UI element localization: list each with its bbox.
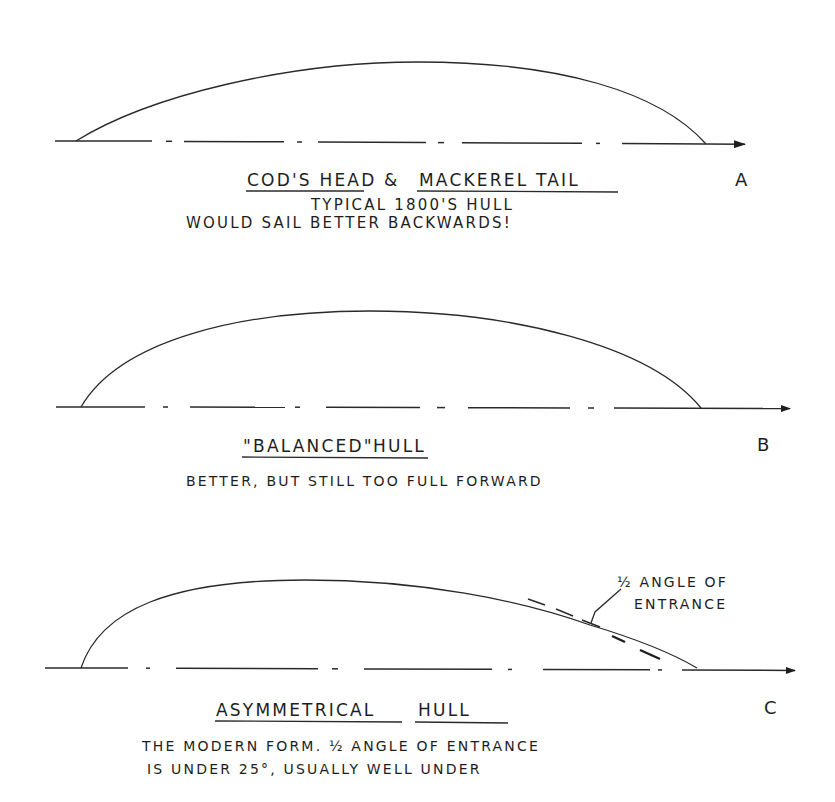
hull-curve-a: [76, 62, 706, 144]
title-ampersand: &: [384, 170, 399, 190]
tangent-dash-1: [528, 599, 545, 605]
label-a: A: [735, 169, 750, 190]
annotation-entrance: ENTRANCE: [634, 596, 727, 612]
curve-thickening: [612, 636, 660, 659]
title-balanced: "BALANCED": [243, 436, 374, 456]
title-hull-b: HULL: [373, 436, 426, 456]
caption-c-line1: THE MODERN FORM. ½ ANGLE OF ENTRANCE: [141, 738, 540, 754]
label-c: C: [764, 697, 779, 718]
title-mackerel-tail: MACKEREL TAIL: [419, 170, 580, 190]
diagram-a: COD'S HEAD & MACKEREL TAIL TYPICAL 1800'…: [55, 62, 750, 232]
hull-shapes-diagram: COD'S HEAD & MACKEREL TAIL TYPICAL 1800'…: [0, 0, 835, 802]
centerline-c: [45, 668, 795, 671]
hull-curve-b: [81, 311, 701, 408]
entrance-annotation: ½ ANGLE OF ENTRANCE: [617, 574, 728, 612]
diagram-b: "BALANCED" HULL BETTER, BUT STILL TOO FU…: [56, 311, 790, 489]
leader-line: [591, 589, 621, 623]
label-b: B: [757, 434, 772, 455]
caption-c: ASYMMETRICAL HULL THE MODERN FORM. ½ ANG…: [141, 700, 540, 777]
diagram-c: ½ ANGLE OF ENTRANCE ASYMMETRICAL HULL TH…: [45, 574, 795, 777]
title-hull-c: HULL: [418, 700, 471, 720]
hull-curve-c: [81, 580, 697, 668]
title-asymmetrical: ASYMMETRICAL: [216, 700, 375, 720]
title-cods-head: COD'S HEAD: [247, 170, 376, 190]
annotation-half-angle: ½ ANGLE OF: [617, 574, 728, 590]
caption-a: COD'S HEAD & MACKEREL TAIL TYPICAL 1800'…: [186, 170, 618, 232]
caption-b-line1: BETTER, BUT STILL TOO FULL FORWARD: [186, 473, 543, 489]
caption-c-line2: IS UNDER 25°, USUALLY WELL UNDER: [147, 761, 482, 777]
caption-b: "BALANCED" HULL BETTER, BUT STILL TOO FU…: [186, 436, 543, 489]
caption-a-line1: TYPICAL 1800'S HULL: [310, 196, 514, 214]
centerline-a: [55, 141, 745, 144]
caption-a-line2: WOULD SAIL BETTER BACKWARDS!: [186, 214, 512, 232]
centerline-b: [56, 407, 790, 409]
